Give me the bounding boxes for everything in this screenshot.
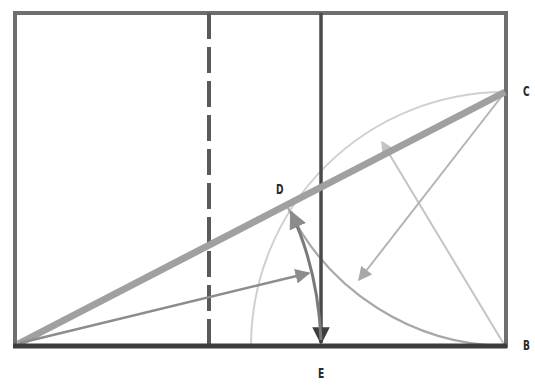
line-c-to-arc [359,92,505,280]
label-e: E [318,366,324,380]
outer-rectangle [15,13,506,346]
golden-ratio-diagram [0,0,535,385]
label-d: D [276,182,284,196]
label-b: B [523,338,530,352]
diagonal-a-c [18,92,505,344]
arrow-a-to-arc [20,273,309,343]
label-c: C [523,84,530,98]
